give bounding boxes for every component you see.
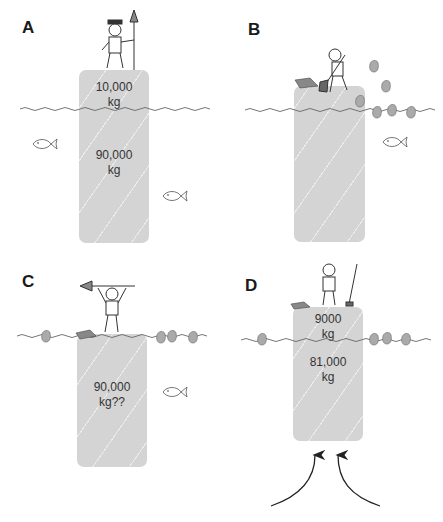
diagram-overlay (0, 0, 443, 522)
person-standing-icon (323, 264, 335, 305)
rock-icon (373, 106, 382, 118)
rock-icon (157, 331, 166, 343)
rock-icon (189, 331, 198, 343)
fish-icon (33, 139, 57, 149)
rock-icon (42, 330, 51, 342)
rock-icon (258, 333, 267, 345)
shovel-icon (346, 264, 357, 306)
person-lifting-shovel-icon (80, 281, 135, 332)
rock-icon (356, 95, 365, 107)
upward-arrow-icon (271, 455, 380, 506)
fish-icon (163, 387, 187, 397)
person-with-shovel-icon (102, 10, 138, 70)
rock-icon (402, 333, 411, 345)
rock-icon (370, 333, 379, 345)
rock-icon (370, 60, 379, 72)
person-digging-icon (319, 49, 347, 92)
fish-icon (163, 191, 187, 201)
rock-icon (383, 332, 392, 344)
rock-icon (407, 106, 416, 118)
fish-icon (383, 137, 407, 147)
rock-pile-icon (295, 78, 318, 88)
water-line-a (20, 108, 210, 111)
rock-icon (168, 330, 177, 342)
rock-pile-icon (291, 302, 310, 309)
rock-icon (388, 104, 397, 116)
rock-icon (382, 80, 391, 92)
